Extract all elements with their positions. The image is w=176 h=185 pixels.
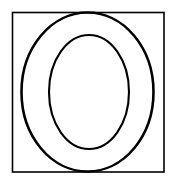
figure-background <box>0 0 176 185</box>
line-drawing-svg <box>0 0 176 185</box>
figure-canvas <box>0 0 176 185</box>
